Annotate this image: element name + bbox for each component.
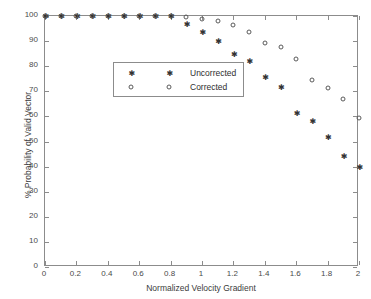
x-tick-label: 2 bbox=[356, 269, 360, 279]
x-tick-label: 1.6 bbox=[290, 269, 301, 279]
data-point-corrected bbox=[294, 56, 299, 61]
y-tick-label: 40 bbox=[0, 161, 38, 171]
data-point-corrected bbox=[215, 19, 220, 24]
legend-label-uncorrected: Uncorrected bbox=[190, 66, 236, 80]
x-tick-label: 0.4 bbox=[101, 269, 112, 279]
data-point-corrected bbox=[184, 14, 189, 19]
x-tick bbox=[359, 261, 360, 265]
data-point-uncorrected: ✱ bbox=[294, 111, 299, 116]
x-tick-label: 1.8 bbox=[321, 269, 332, 279]
data-point-corrected bbox=[262, 40, 267, 45]
data-point-uncorrected: ✱ bbox=[215, 38, 220, 43]
x-tick-label: 0.6 bbox=[133, 269, 144, 279]
data-point-corrected bbox=[105, 14, 110, 19]
data-point-uncorrected: ✱ bbox=[90, 14, 95, 19]
data-point-corrected bbox=[247, 29, 252, 34]
data-point-uncorrected: ✱ bbox=[184, 21, 189, 26]
legend-entry-uncorrected: ✱ ✱ Uncorrected bbox=[114, 66, 243, 80]
data-point-uncorrected: ✱ bbox=[137, 14, 142, 19]
data-point-uncorrected: ✱ bbox=[357, 164, 362, 169]
data-point-corrected bbox=[278, 45, 283, 50]
data-point-uncorrected: ✱ bbox=[341, 154, 346, 159]
data-points-layer: ✱✱✱✱✱✱✱✱✱✱✱✱✱✱✱✱✱✱✱✱✱ bbox=[45, 16, 357, 265]
data-point-uncorrected: ✱ bbox=[168, 14, 173, 19]
chart-figure: % Probability of Valid Vector Normalized… bbox=[0, 0, 371, 299]
data-point-uncorrected: ✱ bbox=[325, 135, 330, 140]
data-point-corrected bbox=[90, 14, 95, 19]
data-point-uncorrected: ✱ bbox=[105, 14, 110, 19]
data-point-uncorrected: ✱ bbox=[247, 58, 252, 63]
data-point-uncorrected: ✱ bbox=[262, 74, 267, 79]
x-tick-top bbox=[359, 16, 360, 20]
plot-area: ✱✱✱✱✱✱✱✱✱✱✱✱✱✱✱✱✱✱✱✱✱ ✱ ✱ Uncorrected Co… bbox=[44, 15, 358, 266]
legend-circle-icon-b bbox=[167, 85, 172, 90]
data-point-corrected bbox=[121, 14, 126, 19]
y-tick-label: 100 bbox=[0, 10, 38, 20]
y-tick-label: 60 bbox=[0, 110, 38, 120]
data-point-uncorrected: ✱ bbox=[121, 14, 126, 19]
legend-circle-icon-a bbox=[129, 85, 134, 90]
data-point-uncorrected: ✱ bbox=[43, 14, 48, 19]
data-point-corrected bbox=[137, 14, 142, 19]
y-tick-label: 20 bbox=[0, 211, 38, 221]
data-point-uncorrected: ✱ bbox=[58, 14, 63, 19]
legend-star-icon-a: ✱ bbox=[129, 71, 134, 76]
x-tick-label: 0.2 bbox=[70, 269, 81, 279]
x-tick-label: 1 bbox=[199, 269, 203, 279]
data-point-uncorrected: ✱ bbox=[152, 14, 157, 19]
x-tick-label: 0 bbox=[42, 269, 46, 279]
x-axis-title: Normalized Velocity Gradient bbox=[44, 283, 358, 293]
x-tick-label: 1.2 bbox=[227, 269, 238, 279]
y-tick-label: 30 bbox=[0, 186, 38, 196]
data-point-uncorrected: ✱ bbox=[231, 52, 236, 57]
data-point-corrected bbox=[74, 14, 79, 19]
data-point-corrected bbox=[341, 96, 346, 101]
data-point-uncorrected: ✱ bbox=[278, 85, 283, 90]
data-point-corrected bbox=[168, 14, 173, 19]
legend-label-corrected: Corrected bbox=[190, 80, 227, 94]
y-tick-label: 80 bbox=[0, 60, 38, 70]
data-point-corrected bbox=[43, 14, 48, 19]
legend-box: ✱ ✱ Uncorrected Corrected bbox=[113, 62, 244, 97]
data-point-corrected bbox=[231, 22, 236, 27]
data-point-corrected bbox=[152, 14, 157, 19]
data-point-corrected bbox=[309, 78, 314, 83]
y-tick bbox=[45, 267, 49, 268]
y-tick-label: 0 bbox=[0, 261, 38, 271]
x-tick-label: 0.8 bbox=[164, 269, 175, 279]
y-tick-label: 50 bbox=[0, 136, 38, 146]
x-tick-label: 1.4 bbox=[258, 269, 269, 279]
y-tick-label: 70 bbox=[0, 85, 38, 95]
y-tick-right bbox=[353, 267, 357, 268]
data-point-uncorrected: ✱ bbox=[309, 119, 314, 124]
data-point-uncorrected: ✱ bbox=[200, 30, 205, 35]
y-tick-label: 90 bbox=[0, 35, 38, 45]
data-point-corrected bbox=[200, 16, 205, 21]
data-point-corrected bbox=[325, 86, 330, 91]
data-point-corrected bbox=[58, 14, 63, 19]
legend-star-icon-b: ✱ bbox=[167, 71, 172, 76]
data-point-uncorrected: ✱ bbox=[74, 14, 79, 19]
legend-entry-corrected: Corrected bbox=[114, 80, 243, 94]
y-tick-label: 10 bbox=[0, 236, 38, 246]
data-point-corrected bbox=[357, 116, 362, 121]
